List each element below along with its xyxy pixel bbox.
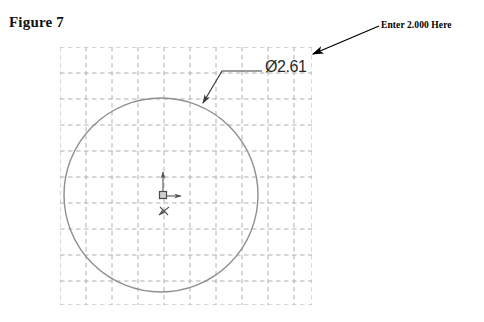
callout-arrow-icon (313, 26, 379, 54)
origin-square-icon (160, 192, 167, 199)
leader-line (203, 71, 262, 103)
sketch-origin-marker[interactable] (159, 172, 181, 215)
callout-instruction-text: Enter 2.000 Here (381, 20, 452, 30)
screenshot-canvas: Figure 7 (0, 0, 484, 322)
sketch-grid (60, 47, 312, 305)
diameter-dimension-value[interactable]: Ø2.61 (265, 58, 307, 76)
diameter-dimension-leader[interactable] (203, 71, 262, 103)
sketch-drawing-area (0, 0, 484, 322)
